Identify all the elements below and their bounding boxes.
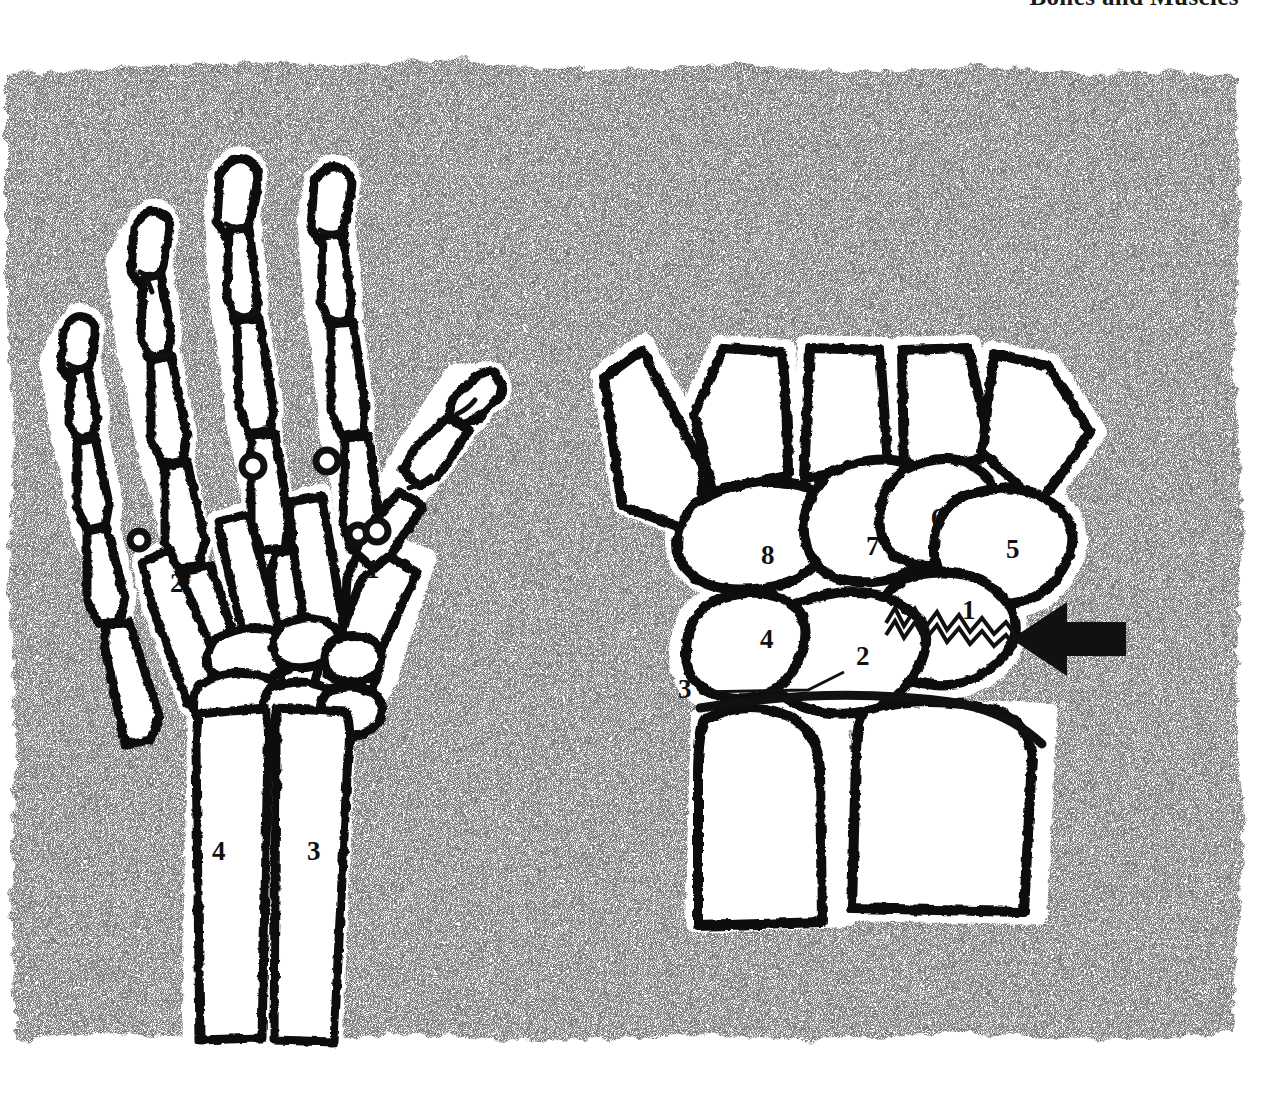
distal-radius bbox=[852, 702, 1032, 912]
label-right-6: 6 bbox=[931, 505, 945, 532]
label-right-5: 5 bbox=[1006, 536, 1020, 563]
carpal-bone-4 bbox=[686, 593, 806, 700]
label-left-3: 3 bbox=[307, 838, 321, 865]
label-right-2: 2 bbox=[856, 643, 870, 670]
label-right-1: 1 bbox=[962, 597, 976, 624]
label-left-2: 2 bbox=[170, 570, 184, 597]
distal-ulna bbox=[698, 708, 822, 926]
label-left-1: 1 bbox=[366, 556, 380, 583]
figure-right-wrist-carpus bbox=[0, 0, 1283, 1095]
page-running-head: Bones and Muscles bbox=[1029, 0, 1239, 11]
label-right-7: 7 bbox=[866, 533, 880, 560]
label-right-3: 3 bbox=[678, 676, 692, 703]
label-right-8: 8 bbox=[761, 542, 775, 569]
label-left-4: 4 bbox=[212, 838, 226, 865]
label-right-4: 4 bbox=[760, 626, 774, 653]
